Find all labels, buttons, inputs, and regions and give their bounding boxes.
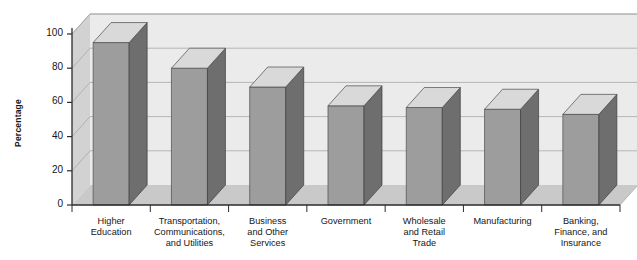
- y-tick-label: 100: [33, 27, 63, 38]
- bar-side-face: [442, 88, 460, 205]
- x-category-label-line: Insurance: [534, 238, 628, 249]
- y-tick-label: 60: [33, 95, 63, 106]
- y-tick-label: 40: [33, 130, 63, 141]
- x-category-label: Banking,Finance, andInsurance: [534, 216, 628, 250]
- bar-front-face: [485, 109, 521, 205]
- bar-front-face: [250, 87, 286, 205]
- bar-front-face: [171, 68, 207, 205]
- y-tick-label: 0: [33, 198, 63, 209]
- bar-front-face: [406, 108, 442, 205]
- bar-front-face: [328, 106, 364, 205]
- bar-side-face: [129, 23, 147, 205]
- bar-front-face: [93, 43, 129, 205]
- bar-chart: Percentage 020406080100 HigherEducationT…: [0, 0, 637, 260]
- x-category-label-line: Trade: [377, 238, 471, 249]
- x-category-label-line: and Retail: [377, 227, 471, 238]
- x-category-label-line: and Other: [221, 227, 315, 238]
- bar-front-face: [563, 114, 599, 205]
- bar-side-face: [286, 67, 304, 205]
- bar-side-face: [364, 86, 382, 205]
- y-tick-label: 20: [33, 164, 63, 175]
- x-category-label-line: Banking,: [534, 216, 628, 227]
- bar-side-face: [207, 48, 225, 205]
- plot-left-wall: [72, 14, 90, 205]
- x-category-label-line: Finance, and: [534, 227, 628, 238]
- y-tick-label: 80: [33, 61, 63, 72]
- x-category-label-line: Services: [221, 238, 315, 249]
